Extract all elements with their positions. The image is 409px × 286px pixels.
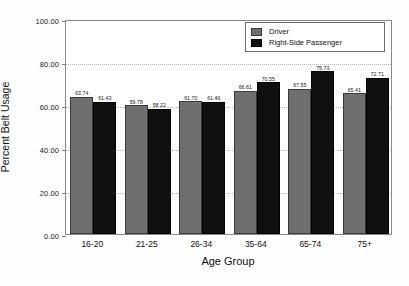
bar-value-label: 58.22 [153,102,166,108]
bar-value-label: 70.55 [262,76,275,82]
bar-value-label: 59.78 [130,99,143,105]
x-axis-title: Age Group [201,255,254,267]
bar-value-label: 61.46 [207,95,220,101]
bar[interactable]: 66.61 [234,91,257,234]
bar-value-label: 63.74 [75,90,88,96]
y-axis-tick-label: 40.00 [40,146,59,155]
bar-group: 63.7461.43 [70,21,116,234]
belt-usage-chart-screenshot: Percent Belt Usage 0.0020.0040.0060.0080… [0,0,409,286]
y-axis-tick-label: 100.00 [35,17,59,26]
bar-group: 66.6170.55 [234,21,280,234]
x-axis-tick-label: 35-64 [245,239,267,249]
chart-legend: DriverRight-Side Passenger [245,22,385,52]
x-axis-tick-label: 26-34 [190,239,212,249]
bars-layer: 63.7461.4359.7858.2261.7061.4666.6170.55… [66,21,391,234]
bar-group: 61.7061.46 [179,21,225,234]
bar-value-label: 61.43 [98,95,111,101]
bar-value-label: 67.55 [293,82,306,88]
bar[interactable]: 61.46 [202,102,225,234]
bar[interactable]: 63.74 [70,97,93,234]
y-axis-tick-label: 80.00 [40,60,59,69]
bar-group: 59.7858.22 [125,21,171,234]
y-axis-title: Percent Belt Usage [0,82,11,172]
bar-group: 67.5575.73 [288,21,334,234]
bar-value-label: 75.73 [316,65,329,71]
plot-area: 0.0020.0040.0060.0080.00100.00 63.7461.4… [65,20,392,235]
x-axis-tick-label: 21-25 [136,239,158,249]
bar-value-label: 72.71 [371,71,384,77]
bar-value-label: 66.61 [239,84,252,90]
bar[interactable]: 59.78 [125,105,148,234]
x-axis-tick-label: 16-20 [81,239,103,249]
x-axis-tick-label: 75+ [358,239,372,249]
legend-swatch-driver-icon [251,28,262,36]
legend-item[interactable]: Driver [251,26,380,37]
bar[interactable]: 61.43 [93,102,116,234]
y-axis-tick [62,236,66,237]
y-axis-tick-label: 20.00 [40,189,59,198]
legend-item[interactable]: Right-Side Passenger [251,37,380,48]
bar-value-label: 65.41 [348,87,361,93]
bar[interactable]: 72.71 [366,78,389,234]
bar[interactable]: 65.41 [343,93,366,234]
legend-swatch-passenger-icon [251,39,262,47]
bar[interactable]: 58.22 [148,109,171,234]
y-axis-tick-label: 60.00 [40,103,59,112]
bar[interactable]: 75.73 [311,71,334,234]
legend-item-label: Right-Side Passenger [269,38,342,47]
bar[interactable]: 67.55 [288,89,311,234]
x-axis-tick-label: 65-74 [299,239,321,249]
bar-value-label: 61.70 [184,95,197,101]
legend-item-label: Driver [269,27,289,36]
bar-group: 65.4172.71 [343,21,389,234]
y-axis-tick-label: 0.00 [44,232,59,241]
bar[interactable]: 61.70 [179,101,202,234]
bar[interactable]: 70.55 [257,82,280,234]
